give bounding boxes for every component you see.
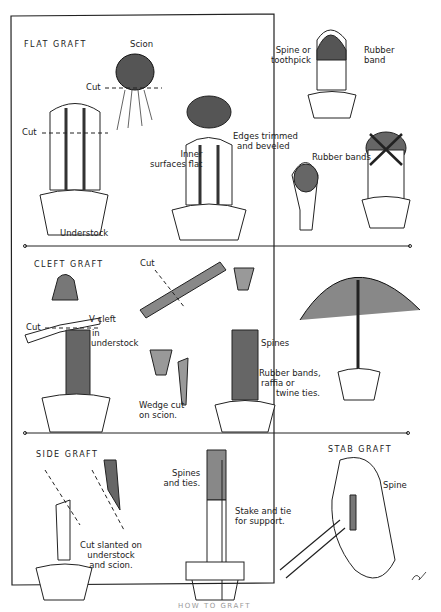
label-stake-line-1: Stake and tie — [235, 506, 291, 516]
label-rubber-bands: Rubber bands — [312, 152, 371, 162]
label-v-cleft: V cleft in understock — [89, 314, 138, 348]
label-understock: Understock — [60, 228, 108, 238]
christmas-cactus-segment-drawing — [140, 262, 226, 318]
label-scion: Scion — [130, 39, 153, 49]
understock-drawing — [40, 104, 108, 236]
label-ties-line-3: twine ties. — [259, 388, 321, 398]
label-ties-line-2: raffia or — [259, 378, 321, 388]
illustration-art — [0, 0, 441, 612]
artist-signature — [412, 572, 426, 580]
section-title-flat-graft: FLAT GRAFT — [24, 40, 87, 49]
banded-graft-drawing — [308, 30, 356, 118]
label-cut-understock: Cut — [22, 127, 37, 137]
cleft-scion-drawing — [52, 274, 78, 300]
section-title-stab-graft: STAB GRAFT — [328, 445, 392, 454]
label-cut-segment: Cut — [140, 258, 155, 268]
label-v-cleft-line-1: V cleft — [89, 314, 138, 324]
label-stake-line-2: for support. — [235, 516, 291, 526]
label-ties-line-1: Rubber bands, — [259, 368, 321, 378]
label-rubber-band-line-1: Rubber — [364, 45, 394, 55]
section-title-side-graft: SIDE GRAFT — [36, 450, 98, 459]
x-banded-graft-drawing — [362, 132, 410, 228]
label-wedge-cut-line-2: on scion. — [139, 410, 184, 420]
label-cut-cleft: Cut — [26, 322, 41, 332]
label-spine-toothpick-line-1: Spine or — [271, 45, 311, 55]
label-spine-toothpick-line-2: toothpick — [271, 55, 311, 65]
label-v-cleft-line-2: in — [89, 328, 138, 338]
label-edges: Edges trimmed and beveled — [233, 131, 298, 151]
frame-border — [11, 14, 274, 585]
cleft-joined-drawing — [215, 268, 275, 432]
label-inner-surfaces-line-2: surfaces flat — [150, 159, 202, 169]
label-inner-surfaces: Inner surfaces flat — [150, 149, 202, 169]
label-spines-ties: Spines and ties. — [162, 468, 200, 488]
label-stake: Stake and tie for support. — [235, 506, 291, 526]
label-wedge-cut: Wedge cut on scion. — [139, 400, 184, 420]
label-cut-slanted-line-3: and scion. — [80, 560, 142, 570]
label-v-cleft-line-3: understock — [89, 338, 138, 348]
figure-caption: HOW TO GRAFT — [178, 602, 251, 610]
label-wedge-cut-line-1: Wedge cut — [139, 400, 184, 410]
side-scion-drawing — [104, 460, 120, 510]
label-cut-slanted-line-1: Cut slanted on — [80, 540, 142, 550]
section-title-cleft-graft: CLEFT GRAFT — [34, 260, 104, 269]
label-ties: Rubber bands, raffia or twine ties. — [259, 368, 321, 398]
label-edges-line-2: and beveled — [233, 141, 298, 151]
scion-drawing — [116, 54, 154, 130]
label-rubber-band: Rubber band — [364, 45, 394, 65]
label-rubber-band-line-2: band — [364, 55, 394, 65]
stab-graft-drawing — [280, 458, 395, 579]
bag-graft-drawing — [292, 163, 318, 231]
label-inner-surfaces-line-1: Inner — [150, 149, 202, 159]
label-cut-slanted-line-2: understock — [80, 550, 142, 560]
label-cut-scion: Cut — [86, 82, 101, 92]
label-spines-ties-line-1: Spines — [162, 468, 200, 478]
wedge-scion-drawing — [150, 350, 188, 405]
label-cut-slanted: Cut slanted on understock and scion. — [80, 540, 142, 570]
label-spines-ties-line-2: and ties. — [162, 478, 200, 488]
label-spines: Spines — [261, 338, 289, 348]
label-spine-toothpick: Spine or toothpick — [271, 45, 311, 65]
label-edges-line-1: Edges trimmed — [233, 131, 298, 141]
label-spine: Spine — [383, 480, 407, 490]
